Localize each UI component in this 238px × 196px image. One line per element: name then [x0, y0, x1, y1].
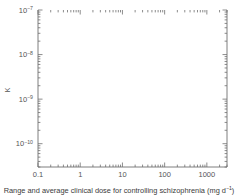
y-axis-title: K [4, 87, 11, 92]
caption-text-end: ) [232, 186, 234, 195]
scatter-plot: 0.11101001000 10−710−810−910−10 K [0, 0, 238, 196]
x-tick-label: 10 [118, 170, 126, 179]
x-axis-caption: Range and average clinical dose for cont… [0, 183, 238, 196]
x-tick-label: 100 [158, 170, 171, 179]
chart-figure: 0.11101001000 10−710−810−910−10 K Range … [0, 0, 238, 196]
y-tick-labels: 10−710−810−910−10 [16, 5, 33, 148]
x-tick-labels: 0.11101001000 [33, 170, 215, 179]
x-tick-label: 1000 [199, 170, 216, 179]
axes [38, 10, 227, 167]
x-tick-label: 1 [78, 170, 82, 179]
y-tick-label: 10−7 [19, 5, 33, 15]
y-axis-label: K [4, 87, 11, 92]
caption-text: Range and average clinical dose for cont… [4, 186, 226, 195]
y-tick-label: 10−10 [16, 139, 33, 149]
y-tick-label: 10−8 [19, 50, 33, 60]
tick-marks [38, 10, 227, 167]
x-tick-label: 0.1 [33, 170, 43, 179]
y-tick-label: 10−9 [19, 94, 33, 104]
